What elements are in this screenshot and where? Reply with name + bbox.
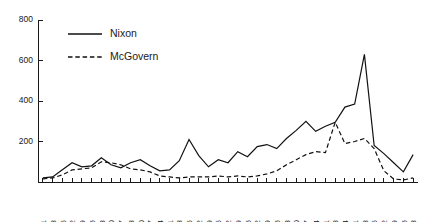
x-tick-label: 12-16 (400, 219, 409, 222)
x-tick-label: 5-6 (88, 219, 97, 222)
legend-label-mcgovern: McGovern (110, 50, 159, 62)
x-tick-label: 5-20 (107, 219, 116, 222)
x-tick-label: 5-27 (117, 219, 126, 222)
y-tick-label: 400 (19, 95, 33, 105)
y-tick-label-group: 200400600800 (19, 14, 33, 146)
chart-legend: Nixon McGovern (68, 27, 159, 62)
x-tick-label: 7-1 (166, 219, 175, 222)
x-tick-label: 4-29 (78, 219, 87, 222)
x-tick-label: 5-13 (98, 219, 107, 222)
x-tick-label: 4-15 (59, 219, 68, 222)
x-tick-group (43, 178, 413, 182)
series-line-mcgovern (43, 122, 413, 180)
x-tick-label: 6-24 (156, 219, 165, 222)
x-tick-label: 11-18 (361, 219, 370, 222)
x-tick-label: 6-3 (127, 219, 136, 222)
x-tick-label: 4-1 (39, 219, 48, 222)
x-tick-label: 11-11 (351, 219, 360, 222)
x-tick-label: 7-22 (195, 219, 204, 222)
x-tick-label: 9-30 (292, 219, 301, 222)
y-tick-label: 600 (19, 55, 33, 65)
x-tick-label: 4-8 (49, 219, 58, 222)
x-tick-label: 11-4 (341, 219, 350, 222)
x-tick-label: 7-15 (185, 219, 194, 222)
x-tick-label: 9-2 (253, 219, 262, 222)
y-tick-label: 200 (19, 136, 33, 146)
x-tick-label: 10-7 (302, 219, 311, 222)
x-tick-label: 12-2 (380, 219, 389, 222)
chart-container: 200400600800 4-14-84-154-224-295-65-135-… (0, 0, 423, 222)
x-tick-label: 8-12 (224, 219, 233, 222)
x-tick-label: 10-21 (322, 219, 331, 222)
x-tick-label: 7-8 (175, 219, 184, 222)
x-tick-label: 9-16 (273, 219, 282, 222)
x-tick-label: 10-14 (312, 219, 321, 222)
legend-label-nixon: Nixon (110, 27, 137, 39)
x-tick-label: 6-17 (146, 219, 155, 222)
series-group (43, 54, 413, 180)
x-tick-label: 12-23 (409, 219, 418, 222)
series-line-nixon (43, 54, 413, 178)
x-tick-label: 8-26 (244, 219, 253, 222)
x-tick-label-group: 4-14-84-154-224-295-65-135-205-276-36-10… (39, 219, 418, 222)
x-tick-label: 8-19 (234, 219, 243, 222)
x-tick-label: 6-10 (137, 219, 146, 222)
y-tick-label: 800 (19, 14, 33, 24)
line-chart: 200400600800 4-14-84-154-224-295-65-135-… (0, 0, 423, 222)
x-tick-label: 4-22 (68, 219, 77, 222)
x-tick-label: 12-9 (390, 219, 399, 222)
x-tick-label: 7-29 (205, 219, 214, 222)
x-tick-label: 11-25 (370, 219, 379, 222)
x-tick-label: 8-5 (214, 219, 223, 222)
x-tick-label: 9-23 (283, 219, 292, 222)
x-tick-label: 9-9 (263, 219, 272, 222)
y-tick-group (38, 20, 43, 182)
x-tick-label: 10-28 (331, 219, 340, 222)
